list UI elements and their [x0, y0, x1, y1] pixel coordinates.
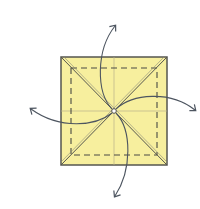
origami-diagram — [0, 0, 200, 209]
center-point — [112, 109, 117, 114]
